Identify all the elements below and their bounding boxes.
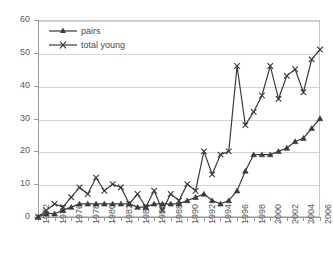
legend-item-total-young: total young — [48, 38, 125, 52]
data-point — [218, 152, 224, 158]
data-point — [284, 73, 290, 79]
data-point — [93, 175, 99, 181]
data-point — [160, 208, 166, 214]
data-point — [317, 116, 323, 121]
data-point — [292, 66, 298, 72]
legend-key-x-icon — [48, 39, 78, 51]
data-point — [68, 195, 74, 201]
data-point — [135, 191, 141, 197]
data-point — [201, 191, 207, 196]
data-point — [118, 185, 124, 191]
data-point — [209, 172, 215, 178]
data-point — [317, 47, 323, 53]
data-point — [52, 201, 58, 207]
data-point — [234, 188, 240, 193]
data-point — [243, 168, 249, 173]
series-line-total-young — [38, 50, 320, 217]
chart-legend: pairs total young — [48, 24, 125, 52]
legend-item-pairs: pairs — [48, 24, 125, 38]
data-point — [110, 181, 116, 187]
data-point — [151, 188, 157, 194]
data-point — [85, 191, 91, 197]
data-point — [102, 188, 108, 194]
legend-label-pairs: pairs — [81, 26, 101, 37]
legend-label-total-young: total young — [81, 40, 125, 51]
data-point — [251, 109, 257, 115]
data-point — [77, 185, 83, 191]
data-point — [184, 181, 190, 187]
data-point — [168, 191, 174, 197]
legend-key-triangle-icon — [48, 25, 78, 37]
